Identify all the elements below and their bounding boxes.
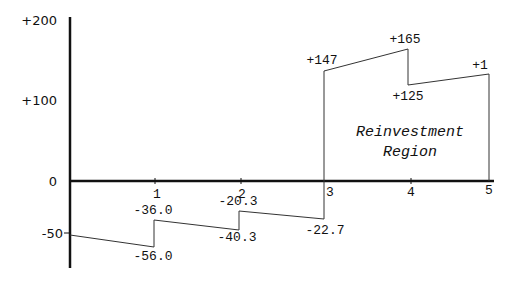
label-p1: +1 <box>472 58 488 73</box>
label-m403: -40.3 <box>217 230 256 245</box>
label-m203: -20.3 <box>218 194 257 209</box>
y-label-m50: -50 <box>42 226 63 241</box>
label-m36: -36.0 <box>133 203 172 218</box>
region-label-line2: Region <box>383 144 437 161</box>
y-label-200: +200 <box>21 13 57 28</box>
region-label-line1: Reinvestment <box>356 124 464 141</box>
x-label-1: 1 <box>153 187 161 202</box>
y-label-0: 0 <box>49 174 57 189</box>
label-p125: +125 <box>392 89 423 104</box>
x-label-5: 5 <box>485 183 493 198</box>
x-label-3: 3 <box>326 185 334 200</box>
label-m56: -56.0 <box>133 249 172 264</box>
label-p147: +147 <box>306 53 337 68</box>
chart: +200 +100 0 -50 1 2 3 4 5 -56.0 -36.0 -4… <box>0 0 519 286</box>
label-m227: -22.7 <box>305 223 344 238</box>
x-label-4: 4 <box>407 185 415 200</box>
label-p165: +165 <box>389 32 420 47</box>
y-label-100: +100 <box>21 93 57 108</box>
